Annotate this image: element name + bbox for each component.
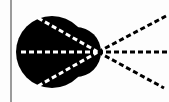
outer-ray-0	[98, 16, 166, 52]
outer-ray-2	[98, 52, 164, 88]
ray-diagram	[0, 0, 169, 102]
diagram-stage	[0, 0, 169, 102]
outer-rays	[98, 16, 169, 88]
